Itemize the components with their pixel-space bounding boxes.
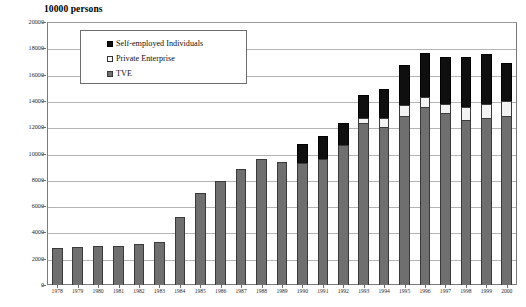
bar-segment-tve[interactable]	[358, 123, 369, 285]
x-tick-label: 1999	[476, 287, 496, 295]
bar-segment-self-employed[interactable]	[399, 65, 410, 105]
bar-segment-self-employed[interactable]	[318, 136, 329, 159]
x-tick-label: 1982	[129, 287, 149, 295]
bar-group[interactable]	[52, 248, 63, 285]
y-tick-mark	[42, 180, 46, 181]
bar-group[interactable]	[420, 53, 431, 285]
x-tick-label: 1998	[456, 287, 476, 295]
bar-segment-tve[interactable]	[440, 113, 451, 285]
y-tick-label: 6000	[2, 203, 44, 209]
bar-group[interactable]	[195, 193, 206, 285]
bar-segment-tve[interactable]	[399, 116, 410, 285]
bar-group[interactable]	[93, 246, 104, 285]
x-tick-mark	[57, 285, 58, 288]
bar-segment-self-employed[interactable]	[338, 123, 349, 146]
legend-item-tve: TVE	[107, 66, 246, 81]
bar-segment-tve[interactable]	[338, 145, 349, 285]
y-tick-mark	[42, 154, 46, 155]
bar-group[interactable]	[481, 54, 492, 285]
bar-segment-self-employed[interactable]	[440, 57, 451, 103]
bar-segment-tve[interactable]	[93, 246, 104, 285]
bar-segment-private-enterprise[interactable]	[481, 104, 492, 118]
x-tick-mark	[364, 285, 365, 288]
bar-segment-tve[interactable]	[52, 248, 63, 285]
y-tick-label: 14000	[2, 98, 44, 104]
x-tick-mark	[343, 285, 344, 288]
bar-segment-tve[interactable]	[420, 107, 431, 285]
bar-group[interactable]	[399, 65, 410, 285]
bar-group[interactable]	[215, 181, 226, 285]
x-tick-label: 1993	[354, 287, 374, 295]
bar-segment-private-enterprise[interactable]	[379, 118, 390, 127]
x-tick-mark	[180, 285, 181, 288]
bar-group[interactable]	[440, 57, 451, 285]
bar-group[interactable]	[379, 89, 390, 285]
bar-segment-tve[interactable]	[134, 244, 145, 285]
legend-swatch-black-icon	[107, 41, 113, 47]
bar-segment-self-employed[interactable]	[461, 57, 472, 108]
x-tick-mark	[507, 285, 508, 288]
bar-segment-self-employed[interactable]	[358, 95, 369, 118]
x-tick-label: 1984	[170, 287, 190, 295]
bar-group[interactable]	[338, 123, 349, 285]
bar-segment-tve[interactable]	[256, 159, 267, 285]
bar-group[interactable]	[358, 95, 369, 285]
bar-segment-tve[interactable]	[236, 169, 247, 285]
bar-segment-self-employed[interactable]	[501, 63, 512, 102]
bar-segment-tve[interactable]	[72, 247, 83, 285]
bar-group[interactable]	[175, 217, 186, 285]
bar-group[interactable]	[256, 159, 267, 285]
bar-segment-self-employed[interactable]	[420, 53, 431, 97]
y-tick-label: 4000	[2, 229, 44, 235]
bar-segment-tve[interactable]	[318, 159, 329, 285]
bar-group[interactable]	[318, 136, 329, 285]
bar-segment-self-employed[interactable]	[481, 54, 492, 104]
bar-segment-private-enterprise[interactable]	[420, 97, 431, 108]
bar-group[interactable]	[154, 242, 165, 285]
y-tick-label: 18000	[2, 45, 44, 51]
bar-group[interactable]	[72, 247, 83, 285]
x-tick-label: 1983	[149, 287, 169, 295]
bar-segment-tve[interactable]	[175, 217, 186, 285]
bar-group[interactable]	[113, 246, 124, 285]
y-tick-label: 12000	[2, 124, 44, 130]
x-tick-label: 1992	[333, 287, 353, 295]
bar-segment-private-enterprise[interactable]	[440, 104, 451, 114]
bar-segment-tve[interactable]	[379, 127, 390, 285]
bar-segment-tve[interactable]	[481, 118, 492, 285]
x-tick-mark	[302, 285, 303, 288]
legend-swatch-gray-icon	[107, 71, 113, 77]
bar-segment-private-enterprise[interactable]	[461, 107, 472, 120]
y-tick-label: 20000	[2, 19, 44, 25]
bar-segment-private-enterprise[interactable]	[501, 101, 512, 116]
bar-group[interactable]	[297, 144, 308, 285]
bar-group[interactable]	[461, 57, 472, 285]
bar-group[interactable]	[236, 169, 247, 285]
bar-segment-self-employed[interactable]	[379, 89, 390, 119]
bar-segment-tve[interactable]	[461, 120, 472, 285]
x-tick-mark	[221, 285, 222, 288]
bar-segment-tve[interactable]	[113, 246, 124, 285]
x-tick-label: 1989	[272, 287, 292, 295]
bar-segment-tve[interactable]	[297, 163, 308, 285]
x-tick-mark	[262, 285, 263, 288]
bar-segment-private-enterprise[interactable]	[399, 105, 410, 116]
bar-segment-tve[interactable]	[277, 162, 288, 285]
x-tick-label: 1988	[251, 287, 271, 295]
y-tick-mark	[42, 127, 46, 128]
bar-segment-self-employed[interactable]	[297, 144, 308, 164]
bar-group[interactable]	[134, 244, 145, 285]
y-tick-mark	[42, 22, 46, 23]
bar-segment-tve[interactable]	[195, 193, 206, 285]
bar-group[interactable]	[501, 63, 512, 285]
y-tick-label: 10000	[2, 151, 44, 157]
y-tick-label: 0	[2, 282, 44, 288]
bar-group[interactable]	[277, 162, 288, 285]
legend-item-private-enterprise: Private Enterprise	[107, 51, 246, 66]
bar-segment-tve[interactable]	[215, 181, 226, 285]
chart-title: 10000 persons	[44, 4, 103, 14]
bar-segment-tve[interactable]	[154, 242, 165, 285]
x-tick-mark	[159, 285, 160, 288]
x-tick-label: 1985	[190, 287, 210, 295]
bar-segment-tve[interactable]	[501, 116, 512, 285]
